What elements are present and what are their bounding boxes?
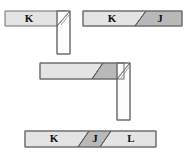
joint-diagram-canvas: K K J (0, 0, 188, 154)
shape-top-right: K J (83, 11, 182, 26)
b-label-l: L (127, 132, 134, 144)
tl-label-k: K (25, 12, 34, 24)
tl-vertical-post (57, 11, 70, 54)
b-label-j: J (92, 132, 98, 144)
tr-label-k: K (108, 12, 117, 24)
shape-bottom: K J L (25, 131, 156, 147)
diagram-svg: K K J (0, 0, 188, 154)
b-label-k: K (50, 132, 59, 144)
tr-label-j: J (157, 12, 163, 24)
shape-middle (40, 63, 130, 120)
shape-top-left: K (5, 11, 70, 54)
